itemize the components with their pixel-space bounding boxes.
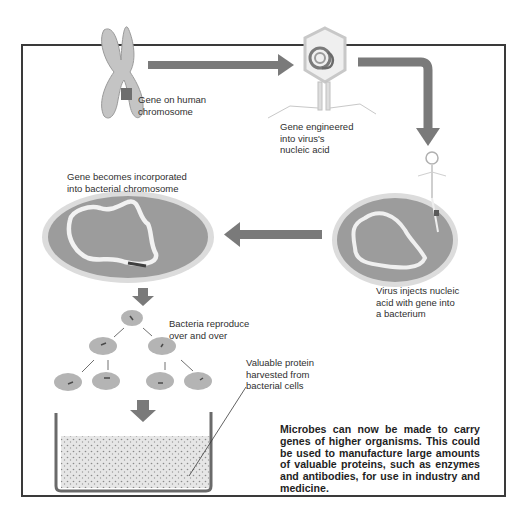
label-line: Bacteria reproduce [169, 318, 249, 330]
arrow-left-icon [224, 222, 322, 247]
protein-vat-icon [56, 412, 211, 491]
label-line: acid with gene into [376, 297, 459, 309]
gene-band-icon [121, 88, 132, 100]
label-line: Gene becomes incorporated [67, 171, 187, 183]
arrow-corner-down-icon [358, 62, 440, 146]
label-gene-incorporated: Gene becomes incorporated into bacterial… [67, 171, 187, 194]
label-line: into bacterial chromosome [67, 183, 187, 195]
label-line: Valuable protein [246, 357, 314, 369]
human-chromosome-icon [102, 27, 143, 118]
label-line: over and over [169, 330, 249, 342]
label-line: into virus's [280, 133, 353, 145]
label-line: harvested from [246, 369, 314, 381]
virus-icon [268, 28, 376, 118]
label-line: chromosome [138, 106, 206, 118]
label-protein-harvested: Valuable protein harvested from bacteria… [246, 357, 314, 392]
label-line: a bacterium [376, 308, 459, 320]
label-line: Gene on human [138, 94, 206, 106]
injected-gene-icon [434, 210, 439, 216]
bacterium-injected-icon [332, 152, 458, 287]
bacterium-incorporated-icon [42, 191, 214, 283]
label-line: bacterial cells [246, 380, 314, 392]
arrow-down-icon [132, 288, 154, 306]
arrow-down-icon [130, 400, 156, 422]
label-line: Gene engineered [280, 121, 353, 133]
label-virus-injects: Virus injects nucleic acid with gene int… [376, 285, 459, 320]
label-gene-engineered-into-virus: Gene engineered into virus's nucleic aci… [280, 121, 353, 156]
label-gene-on-human-chromosome: Gene on human chromosome [138, 94, 206, 117]
arrow-right-icon [148, 54, 294, 76]
label-bacteria-reproduce: Bacteria reproduce over and over [169, 318, 249, 341]
diagram-caption: Microbes can now be made to carry genes … [280, 424, 480, 495]
label-line: nucleic acid [280, 144, 353, 156]
pointer-line [189, 387, 246, 476]
label-line: Virus injects nucleic [376, 285, 459, 297]
